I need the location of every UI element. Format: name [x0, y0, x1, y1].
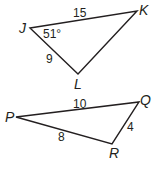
- side-label-pr: 8: [58, 131, 65, 143]
- vertex-label-p: P: [5, 110, 14, 124]
- side-label-pq: 10: [73, 98, 86, 110]
- side-label-jk: 15: [73, 7, 86, 19]
- vertex-label-q: Q: [140, 93, 151, 107]
- vertex-label-l: L: [74, 77, 82, 91]
- angle-label-j: 51°: [43, 28, 61, 40]
- vertex-label-j: J: [19, 21, 26, 35]
- side-label-qr: 4: [127, 121, 134, 133]
- vertex-label-k: K: [139, 3, 148, 17]
- side-label-jl: 9: [46, 53, 53, 65]
- vertex-label-r: R: [109, 146, 119, 160]
